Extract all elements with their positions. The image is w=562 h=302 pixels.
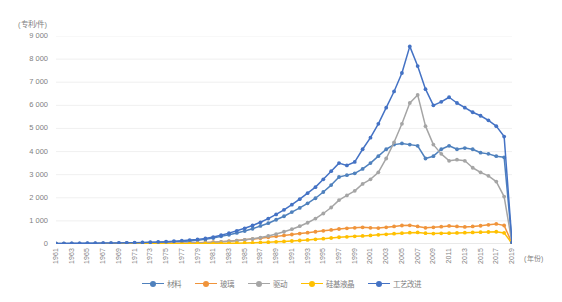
legend-item-材料[interactable]: 材料 [142, 278, 181, 289]
data-point [487, 223, 491, 227]
data-point [353, 171, 357, 175]
data-point [321, 229, 325, 233]
data-point [172, 239, 176, 243]
x-tick-label: 1979 [194, 248, 202, 264]
x-tick-label: 1977 [178, 248, 186, 264]
data-point [321, 212, 325, 216]
legend-item-硅基液晶[interactable]: 硅基液晶 [301, 278, 354, 289]
series-line [56, 143, 512, 243]
data-point [290, 239, 294, 243]
y-tick-label: 4 000 [8, 148, 48, 156]
data-point [455, 158, 459, 162]
x-tick-label: 2001 [366, 248, 374, 264]
data-point [259, 220, 263, 224]
y-tick-label: 5 000 [8, 124, 48, 132]
data-point [117, 241, 121, 244]
legend-swatch-icon [248, 280, 270, 288]
data-point [424, 226, 428, 230]
data-point [62, 242, 66, 244]
data-point [400, 142, 404, 146]
data-point [274, 213, 278, 217]
legend-item-工艺改进[interactable]: 工艺改进 [368, 278, 421, 289]
data-point [439, 100, 443, 104]
data-point [502, 195, 506, 199]
data-point [479, 151, 483, 155]
y-tick-label: 9 000 [8, 32, 48, 40]
data-point [487, 118, 491, 122]
data-point [321, 190, 325, 194]
data-point [424, 87, 428, 91]
data-point [314, 230, 318, 234]
data-point [431, 232, 435, 236]
data-point [479, 170, 483, 174]
data-point [345, 235, 349, 239]
data-point [329, 228, 333, 232]
data-point [424, 124, 428, 128]
data-point [400, 122, 404, 126]
data-point [251, 241, 255, 244]
data-point [361, 225, 365, 229]
data-point [251, 224, 255, 228]
data-point [298, 197, 302, 201]
data-point [259, 241, 263, 244]
data-point [329, 206, 333, 210]
data-point [243, 226, 247, 230]
data-point [408, 223, 412, 227]
data-point [56, 242, 58, 244]
data-point [306, 201, 310, 205]
data-point [439, 231, 443, 235]
data-point [416, 144, 420, 148]
data-point [384, 157, 388, 161]
legend-item-驱动[interactable]: 驱动 [248, 278, 287, 289]
data-point [274, 232, 278, 236]
data-point [471, 166, 475, 170]
data-point [266, 240, 270, 244]
data-point [384, 232, 388, 236]
data-point [298, 224, 302, 228]
x-tick-label: 1971 [131, 248, 139, 264]
data-point [353, 160, 357, 164]
data-point [164, 240, 168, 244]
data-point [266, 221, 270, 225]
data-point [188, 238, 192, 242]
data-point [306, 238, 310, 242]
data-point [180, 239, 184, 243]
data-point [455, 225, 459, 229]
data-point [369, 136, 373, 140]
data-point [400, 231, 404, 235]
plot-area [56, 36, 512, 244]
x-tick-label: 1999 [351, 248, 359, 264]
legend-label: 材料 [167, 278, 181, 289]
data-point [447, 159, 451, 163]
data-point [471, 110, 475, 114]
data-point [479, 224, 483, 228]
data-point [203, 237, 207, 241]
data-point [487, 230, 491, 234]
legend-label: 驱动 [273, 278, 287, 289]
x-tick-label: 1967 [99, 248, 107, 264]
data-point [416, 93, 420, 97]
data-point [463, 231, 467, 235]
data-point [447, 231, 451, 235]
data-point [329, 169, 333, 173]
data-point [479, 230, 483, 234]
y-tick-label: 0 [8, 240, 48, 248]
data-point [290, 203, 294, 207]
data-point [156, 240, 160, 244]
data-point [345, 164, 349, 168]
series-工艺改进 [56, 45, 512, 245]
data-point [353, 234, 357, 238]
data-point [369, 234, 373, 238]
data-point [274, 240, 278, 244]
x-tick-label: 1965 [83, 248, 91, 264]
data-point [400, 224, 404, 228]
x-tick-label: 1973 [146, 248, 154, 264]
data-point [266, 234, 270, 238]
data-point [494, 124, 498, 128]
data-point [259, 236, 263, 240]
data-point [306, 231, 310, 235]
legend-item-玻璃[interactable]: 玻璃 [195, 278, 234, 289]
data-point [101, 241, 105, 244]
legend-swatch-icon [195, 280, 217, 288]
data-point [400, 71, 404, 75]
